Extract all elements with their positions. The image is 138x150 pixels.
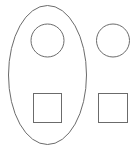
inner-square — [34, 94, 62, 123]
grouping-ellipse — [9, 6, 87, 145]
diagram-canvas — [0, 0, 138, 150]
outer-square — [99, 94, 128, 123]
outer-circle — [97, 24, 130, 57]
inner-circle — [31, 24, 64, 57]
